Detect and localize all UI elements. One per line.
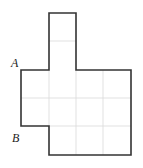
label-b: B	[12, 131, 20, 145]
grid-polygon-figure: A B	[0, 0, 143, 168]
label-a: A	[10, 56, 19, 70]
